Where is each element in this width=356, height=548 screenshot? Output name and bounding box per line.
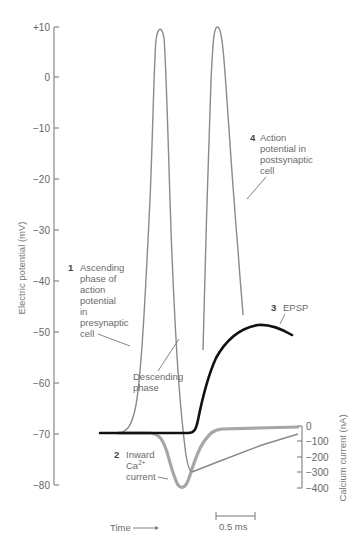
svg-text:EPSP: EPSP (283, 302, 308, 313)
right-y-tick-label: −400 (306, 483, 329, 494)
y-tick-label: −40 (33, 276, 50, 287)
svg-text:1: 1 (68, 262, 74, 273)
svg-text:3: 3 (271, 302, 276, 313)
svg-text:4: 4 (250, 132, 256, 143)
right-y-tick-label: 0 (306, 421, 312, 432)
annotation-presynaptic-ascending: 1 Ascending phase of action potential in… (68, 262, 130, 346)
arrow-right-icon (155, 526, 159, 530)
svg-text:action: action (80, 284, 105, 295)
series-postsynaptic-spike (203, 27, 243, 350)
svg-text:presynaptic: presynaptic (80, 317, 129, 328)
svg-text:Ca2+: Ca2+ (126, 459, 146, 471)
svg-text:cell: cell (260, 165, 274, 176)
scale-bar: 0.5 ms (216, 512, 255, 532)
svg-text:Time: Time (110, 522, 131, 533)
svg-text:phase of: phase of (80, 273, 117, 284)
svg-text:Action: Action (260, 132, 286, 143)
right-y-tick-label: −100 (306, 436, 329, 447)
svg-text:cell: cell (80, 328, 94, 339)
scale-bar-label: 0.5 ms (219, 521, 248, 532)
annotation-epsp: 3 EPSP (271, 302, 308, 324)
right-y-tick-label: −200 (306, 452, 329, 463)
right-y-axis-title: Calcium current (nA) (337, 414, 348, 501)
svg-text:postsynaptic: postsynaptic (260, 154, 313, 165)
svg-text:in: in (80, 306, 87, 317)
chart-svg: +10 0 −10 −20 −30 −40 −50 −60 −70 −80 El… (0, 0, 356, 548)
y-tick-label: −80 (33, 480, 50, 491)
svg-text:phase: phase (133, 382, 159, 393)
y-tick-label: −20 (33, 174, 50, 185)
y-tick-label: 0 (44, 72, 50, 83)
y-tick-label: −30 (33, 225, 50, 236)
y-tick-label: −10 (33, 123, 50, 134)
y-tick-label: −50 (33, 327, 50, 338)
svg-text:potential: potential (80, 295, 116, 306)
svg-text:2: 2 (114, 449, 119, 460)
y-tick-label: +10 (33, 22, 50, 33)
series-epsp (100, 325, 292, 433)
y-axis-title: Electric potential (mV) (16, 222, 27, 315)
annotation-inward-calcium-current: 2 Inward Ca2+ current (114, 449, 168, 482)
svg-text:current: current (126, 471, 156, 482)
svg-text:Ascending: Ascending (80, 262, 124, 273)
svg-text:potential in: potential in (260, 143, 306, 154)
annotation-postsynaptic-action-potential: 4 Action potential in postsynaptic cell (247, 132, 313, 199)
right-y-tick-label: −300 (306, 467, 329, 478)
series-presynaptic-action-potential (118, 29, 192, 472)
series-postsynaptic-action-potential (192, 434, 298, 472)
left-y-axis: +10 0 −10 −20 −30 −40 −50 −60 −70 −80 El… (16, 22, 59, 491)
right-y-axis: 0 −100 −200 −300 −400 Calcium current (n… (297, 414, 348, 501)
svg-text:Descending: Descending (133, 371, 183, 382)
chart-figure: +10 0 −10 −20 −30 −40 −50 −60 −70 −80 El… (0, 0, 356, 548)
time-axis-label: Time (110, 522, 159, 533)
y-tick-label: −70 (33, 429, 50, 440)
y-tick-label: −60 (33, 378, 50, 389)
